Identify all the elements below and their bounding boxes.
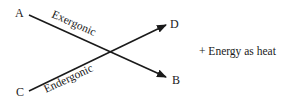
- exergonic-arrow: [29, 15, 166, 77]
- energy-as-heat-annotation: + Energy as heat: [199, 45, 276, 57]
- endergonic-label: Endergonic: [42, 62, 95, 96]
- node-b-label: B: [172, 74, 180, 86]
- exergonic-label: Exergonic: [50, 8, 98, 39]
- node-d-label: D: [170, 18, 179, 30]
- node-a-label: A: [15, 7, 24, 19]
- node-c-label: C: [16, 86, 24, 98]
